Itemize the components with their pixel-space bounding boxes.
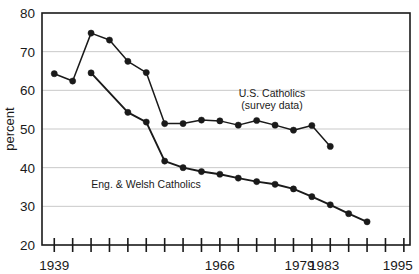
data-point-marker xyxy=(254,178,260,184)
y-tick-label-30: 30 xyxy=(20,199,35,214)
data-point-marker xyxy=(272,122,278,128)
x-tick-label-1939: 1939 xyxy=(39,258,69,273)
data-point-marker xyxy=(235,122,241,128)
us-catholics-label: U.S. Catholics(survey data) xyxy=(239,87,306,111)
x-tick-label-1983: 1983 xyxy=(309,258,339,273)
data-point-marker xyxy=(235,175,241,181)
data-point-marker xyxy=(327,143,333,149)
data-point-marker xyxy=(309,122,315,128)
chart-container: 20304050607080 19391966197919831995 U.S.… xyxy=(0,0,419,274)
y-axis-title-label: percent xyxy=(2,107,17,151)
us-catholics-label-line-2: (survey data) xyxy=(241,99,302,111)
data-point-marker xyxy=(364,219,370,225)
data-point-marker xyxy=(180,165,186,171)
data-point-marker xyxy=(162,158,168,164)
us-catholics-label-line-1: U.S. Catholics xyxy=(239,87,306,99)
data-point-marker xyxy=(309,194,315,200)
data-point-marker xyxy=(272,181,278,187)
data-point-marker xyxy=(88,70,94,76)
data-point-marker xyxy=(346,211,352,217)
y-tick-label-80: 80 xyxy=(20,6,35,21)
data-point-marker xyxy=(106,37,112,43)
y-tick-label-40: 40 xyxy=(20,161,35,176)
y-tick-label-70: 70 xyxy=(20,45,35,60)
data-point-marker xyxy=(290,186,296,192)
chart-background xyxy=(0,0,419,274)
y-axis-title: percent xyxy=(2,107,17,151)
data-point-marker xyxy=(70,78,76,84)
data-point-marker xyxy=(51,71,57,77)
x-tick-label-1966: 1966 xyxy=(205,258,235,273)
data-point-marker xyxy=(143,69,149,75)
chart-svg: 20304050607080 19391966197919831995 U.S.… xyxy=(0,0,419,274)
y-tick-label-60: 60 xyxy=(20,83,35,98)
data-point-marker xyxy=(198,117,204,123)
data-point-marker xyxy=(290,127,296,133)
data-point-marker xyxy=(217,171,223,177)
eng-welsh-catholics-label-line-1: Eng. & Welsh Catholics xyxy=(91,178,201,190)
data-point-marker xyxy=(198,168,204,174)
data-point-marker xyxy=(254,117,260,123)
eng-welsh-catholics-label: Eng. & Welsh Catholics xyxy=(91,178,201,190)
data-point-marker xyxy=(125,58,131,64)
x-tick-label-1995: 1995 xyxy=(383,258,413,273)
data-point-marker xyxy=(217,118,223,124)
y-tick-label-20: 20 xyxy=(20,238,35,253)
data-point-marker xyxy=(162,120,168,126)
y-tick-label-50: 50 xyxy=(20,122,35,137)
data-point-marker xyxy=(88,30,94,36)
data-point-marker xyxy=(327,202,333,208)
data-point-marker xyxy=(180,120,186,126)
data-point-marker xyxy=(125,109,131,115)
data-point-marker xyxy=(143,119,149,125)
